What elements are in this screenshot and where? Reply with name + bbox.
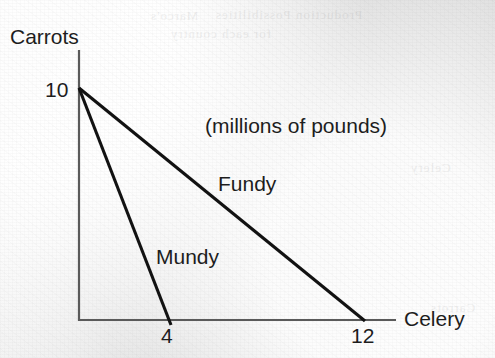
- mundy-curve-label: Mundy: [156, 246, 219, 267]
- y-axis-label: Carrots: [10, 26, 79, 47]
- x-axis-label: Celery: [404, 308, 465, 329]
- figure-canvas: Marco's Production Possibilities for eac…: [0, 0, 495, 358]
- fundy-curve-label: Fundy: [218, 173, 276, 194]
- y-tick-label-10: 10: [45, 79, 68, 100]
- units-note: (millions of pounds): [205, 115, 387, 136]
- x-tick-label-4: 4: [161, 325, 173, 346]
- x-tick-label-12: 12: [351, 325, 374, 346]
